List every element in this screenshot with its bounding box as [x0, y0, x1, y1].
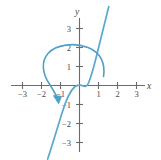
y-tick-label: 3 — [67, 24, 71, 34]
x-tick-label: −2 — [37, 89, 46, 99]
cartesian-plot: −3 −2 −1 1 2 3 3 2 1 −1 −2 −3 x y — [0, 0, 161, 160]
graph-figure: −3 −2 −1 1 2 3 3 2 1 −1 −2 −3 x y — [0, 0, 161, 160]
cubic-curve — [48, 7, 109, 160]
x-tick-labels: −3 −2 −1 1 2 3 — [18, 89, 139, 99]
y-tick-label: 1 — [67, 62, 71, 72]
arrowhead-icon — [53, 96, 61, 104]
transformation-arrow-arc — [43, 45, 104, 99]
y-tick-label: −2 — [62, 119, 71, 129]
x-tick-label: −3 — [18, 89, 27, 99]
y-tick-label: −3 — [62, 138, 71, 148]
x-tick-label: 1 — [96, 89, 100, 99]
x-tick-label: 2 — [115, 89, 119, 99]
x-tick-label: 3 — [134, 89, 138, 99]
x-axis-label: x — [146, 81, 152, 91]
y-axis-label: y — [74, 7, 80, 17]
